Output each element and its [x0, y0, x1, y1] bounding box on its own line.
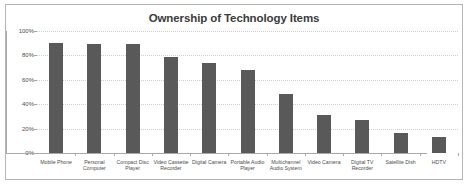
y-axis-tick-mark [34, 55, 37, 56]
y-axis-tick-label: 20% [8, 126, 34, 132]
bar[interactable] [164, 57, 178, 153]
chart-title: Ownership of Technology Items [6, 12, 462, 24]
x-axis-tick-mark [343, 153, 344, 156]
x-axis-tick-mark [190, 153, 191, 156]
x-axis-tick-mark [458, 153, 459, 156]
y-axis-tick-label: 60% [8, 77, 34, 83]
x-axis-tick-mark [305, 153, 306, 156]
y-axis-tick-label: 100% [8, 28, 34, 34]
y-axis-tick-label: 80% [8, 52, 34, 58]
bar-column[interactable] [49, 31, 63, 153]
bar[interactable] [394, 133, 408, 153]
plot-area [37, 31, 458, 153]
y-axis-tick-mark [34, 129, 37, 130]
bar[interactable] [317, 115, 331, 153]
x-axis-tick-mark [381, 153, 382, 156]
bar[interactable] [355, 120, 369, 153]
bar[interactable] [432, 137, 446, 153]
bar-column[interactable] [394, 31, 408, 153]
bar-column[interactable] [432, 31, 446, 153]
y-axis-line [6, 31, 7, 154]
bar[interactable] [126, 44, 140, 153]
x-axis-category-label: Video Camera [305, 159, 343, 165]
bar-column[interactable] [279, 31, 293, 153]
x-axis-tick-mark [75, 153, 76, 156]
bar-column[interactable] [241, 31, 255, 153]
bar-column[interactable] [87, 31, 101, 153]
bar[interactable] [279, 94, 293, 153]
x-axis-tick-mark [228, 153, 229, 156]
x-axis-category-label: Video Cassette Recorder [152, 159, 190, 172]
y-axis-tick-mark [34, 80, 37, 81]
bar-column[interactable] [317, 31, 331, 153]
x-axis-tick-mark [152, 153, 153, 156]
bar[interactable] [87, 44, 101, 153]
y-axis-tick-mark [34, 104, 37, 105]
x-axis-tick-mark [267, 153, 268, 156]
x-axis-category-label: Digital TV Recorder [343, 159, 381, 172]
y-axis-tick-mark [34, 153, 37, 154]
bar[interactable] [241, 70, 255, 153]
bar-column[interactable] [126, 31, 140, 153]
y-axis-tick-label: 40% [8, 101, 34, 107]
bar-column[interactable] [164, 31, 178, 153]
x-axis-category-label: Personal Computer [75, 159, 113, 172]
x-axis-category-label: Digital Camera [190, 159, 228, 165]
x-axis-tick-mark [420, 153, 421, 156]
x-axis-category-label: Portable Audio Player [228, 159, 266, 172]
y-axis: 100%80%60%40%20%0% [6, 5, 34, 186]
bar[interactable] [202, 63, 216, 153]
bar-column[interactable] [202, 31, 216, 153]
x-axis-category-label: Satellite Dish [381, 159, 419, 165]
x-axis-category-label: Mobile Phone [37, 159, 75, 165]
chart-frame: Ownership of Technology Items 100%80%60%… [5, 4, 463, 180]
x-axis-category-label: Multichannel Audio System [267, 159, 305, 172]
x-axis-category-label: Compact Disc Player [114, 159, 152, 172]
x-axis-tick-mark [114, 153, 115, 156]
x-axis-line [6, 153, 427, 154]
x-axis-category-label: HDTV [420, 159, 458, 165]
bar[interactable] [49, 43, 63, 153]
y-axis-tick-mark [34, 31, 37, 32]
bar-column[interactable] [355, 31, 369, 153]
